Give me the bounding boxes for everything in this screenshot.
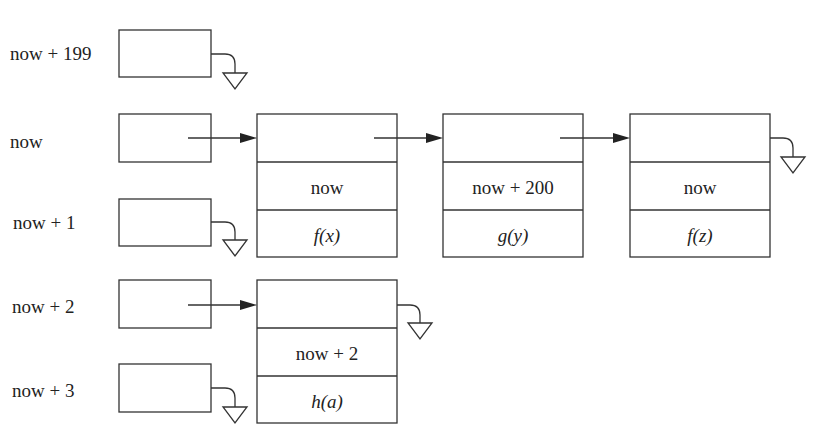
event-time: now + 200 — [443, 178, 583, 197]
event-func: f(x) — [257, 226, 397, 245]
slot-label: now + 199 — [10, 44, 91, 63]
null-pointer-icon — [211, 388, 235, 407]
slot-label: now — [10, 132, 43, 151]
arrowhead-icon — [613, 133, 630, 143]
null-pointer-icon — [397, 305, 420, 323]
slot-label: now + 2 — [12, 297, 74, 316]
null-pointer-icon — [211, 54, 235, 73]
event-time: now — [257, 178, 397, 197]
slot-box-now-3 — [119, 364, 211, 412]
null-pointer-icon — [770, 138, 793, 157]
arrowhead-icon — [240, 133, 257, 143]
event-func: f(z) — [630, 226, 770, 245]
slot-box-now-199 — [119, 30, 211, 77]
slot-label: now + 1 — [13, 213, 75, 232]
timer-wheel-diagram — [0, 0, 813, 431]
slot-label: now + 3 — [12, 381, 74, 400]
event-func: h(a) — [257, 392, 397, 411]
event-time: now + 2 — [257, 344, 397, 363]
event-time: now — [630, 178, 770, 197]
null-pointer-icon — [211, 222, 235, 240]
arrowhead-icon — [426, 133, 443, 143]
event-func: g(y) — [443, 226, 583, 245]
slot-box-now-2 — [119, 280, 211, 328]
arrowhead-icon — [240, 300, 257, 310]
slot-box-now-1 — [119, 199, 211, 246]
